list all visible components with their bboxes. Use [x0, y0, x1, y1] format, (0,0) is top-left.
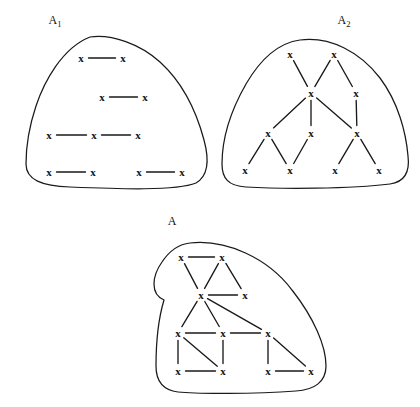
region-A: xxxxxxxxxxxA [154, 214, 326, 393]
graph-vertex: x [179, 166, 185, 178]
graph-vertex: x [242, 289, 248, 301]
panels-layer: xxxxxxxxxxxA1xxxxxxxxxxxA2xxxxxxxxxxxA [26, 13, 408, 393]
graph-vertex: x [287, 48, 293, 60]
graph-union-figure: xxxxxxxxxxxA1xxxxxxxxxxxA2xxxxxxxxxxxA [0, 0, 420, 407]
graph-vertex: x [354, 127, 360, 139]
graph-vertex: x [175, 365, 181, 377]
set-label-subscript: 1 [57, 19, 61, 29]
graph-vertex: x [99, 91, 105, 103]
graph-vertex: x [78, 52, 84, 64]
region-A2: xxxxxxxxxxxA2 [222, 13, 408, 188]
region-A1: xxxxxxxxxxxA1 [26, 13, 207, 189]
graph-vertex: x [332, 164, 338, 176]
graph-vertex: x [142, 91, 148, 103]
graph-vertex: x [220, 365, 226, 377]
graph-vertex: x [120, 52, 126, 64]
graph-vertex: x [219, 251, 225, 263]
graph-vertex: x [178, 251, 184, 263]
graph-vertex: x [46, 129, 52, 141]
graph-vertex: x [91, 129, 97, 141]
graph-vertex: x [265, 127, 271, 139]
graph-vertex: x [175, 327, 181, 339]
graph-vertex: x [308, 127, 314, 139]
graph-vertex: x [242, 164, 248, 176]
graph-vertex: x [308, 87, 314, 99]
set-label-A2: A2 [338, 13, 351, 29]
graph-vertex: x [287, 164, 293, 176]
set-label-A1: A1 [49, 13, 62, 29]
graph-vertex: x [331, 48, 337, 60]
graph-vertex: x [353, 87, 359, 99]
graph-vertex: x [220, 327, 226, 339]
graph-vertex: x [46, 166, 52, 178]
set-label-subscript: 2 [346, 19, 350, 29]
graph-edge [356, 101, 357, 126]
graph-vertex: x [90, 166, 96, 178]
graph-vertex: x [265, 365, 271, 377]
set-label-A: A [168, 214, 177, 228]
graph-vertex: x [265, 327, 271, 339]
graph-vertex: x [376, 164, 382, 176]
graph-vertex: x [198, 289, 204, 301]
graph-vertex: x [308, 365, 314, 377]
graph-vertex: x [135, 129, 141, 141]
graph-vertex: x [136, 166, 142, 178]
